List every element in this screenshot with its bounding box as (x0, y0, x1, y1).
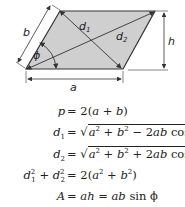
formula-diagonal-2: d2 = √a2 + b2 + 2ab cos ϕ (0, 147, 185, 167)
formula-rhs: = 2(a2 + b2) (67, 168, 137, 182)
formula-rhs: = ah = ab sin ϕ (67, 189, 158, 203)
formula-diagonal-sum: d21 + d22 = 2(a2 + b2) (0, 168, 185, 188)
formula-rhs: = √a2 + b2 − 2ab cos ϕ (67, 125, 185, 139)
label-h: h (168, 35, 175, 48)
extension-line (52, 5, 60, 10)
formula-perimeter: p = 2(a + b) (0, 104, 185, 124)
label-phi: ϕ (33, 49, 40, 62)
formula-lhs: A (57, 189, 65, 203)
label-b: b (23, 26, 30, 39)
formula-rhs: = 2(a + b) (67, 104, 128, 118)
extension-line (16, 62, 25, 68)
formula-rhs: = √a2 + b2 + 2ab cos ϕ (67, 147, 185, 161)
label-a: a (70, 81, 77, 94)
formula-lhs: d2 (53, 147, 65, 163)
formula-area: A = ah = ab sin ϕ (0, 189, 185, 207)
formula-lhs: p (58, 104, 65, 118)
formula-diagonal-1: d1 = √a2 + b2 − 2ab cos ϕ (0, 125, 185, 145)
formula-lhs: d21 + d22 (23, 168, 65, 184)
parallelogram-diagram: b a h d1 d2 ϕ (0, 0, 185, 100)
formula-lhs: d1 (53, 125, 65, 141)
